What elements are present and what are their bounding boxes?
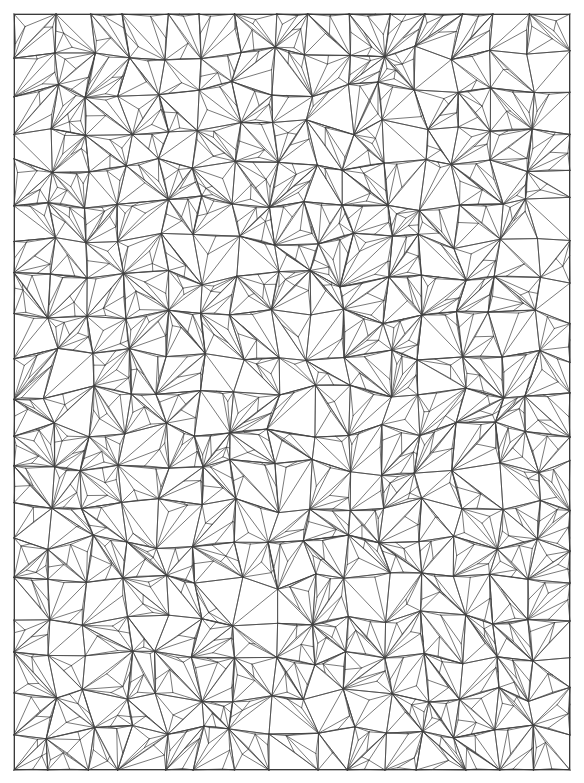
triangular-mesh-plot xyxy=(0,0,584,783)
figure-root xyxy=(0,0,584,783)
